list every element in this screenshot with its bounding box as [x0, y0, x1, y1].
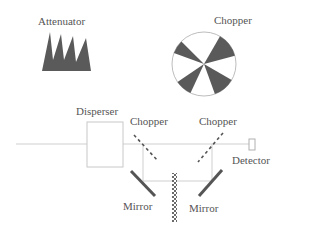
detector-box	[249, 139, 255, 150]
chopper-left-label: Chopper	[130, 115, 168, 127]
mirror-left-label: Mirror	[123, 200, 152, 212]
detector-label: Detector	[232, 154, 270, 166]
mirror-right	[199, 170, 222, 196]
chopper-wheel-icon	[172, 32, 236, 96]
attenuator-label: Attenuator	[38, 15, 85, 27]
chopper-left-splitter	[134, 135, 158, 161]
mirror-right-label: Mirror	[189, 202, 218, 214]
chopper-right-label: Chopper	[199, 115, 237, 127]
chopper-top-label: Chopper	[214, 14, 252, 26]
disperser-box	[87, 122, 123, 167]
disperser-label: Disperser	[76, 105, 118, 117]
attenuator-shape	[42, 32, 91, 71]
chopper-right-splitter	[198, 133, 223, 162]
sample-bar	[172, 173, 177, 222]
